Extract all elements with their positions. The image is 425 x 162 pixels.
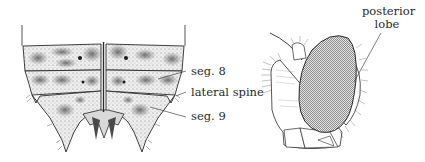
label-seg-8: seg. 8 [191,66,226,78]
label-posterior-lobe-line2: lobe [362,19,412,31]
label-seg-9: seg. 9 [191,111,226,123]
label-lateral-spine: lateral spine [191,87,264,99]
label-posterior-lobe-line1: posterior [362,6,412,18]
figure: seg. 8 lateral spine seg. 9 posterior lo… [0,0,425,162]
